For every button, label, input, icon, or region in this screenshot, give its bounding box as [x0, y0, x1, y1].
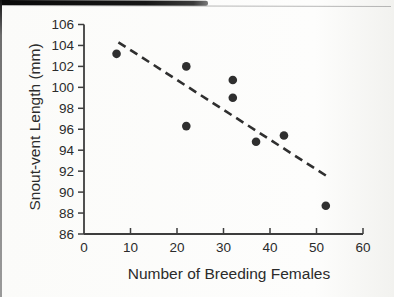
y-tick-label: 96: [59, 122, 74, 137]
y-tick-label: 104: [51, 38, 74, 53]
x-tick-label: 50: [309, 240, 324, 255]
x-tick-label: 0: [80, 240, 88, 255]
data-point: [229, 94, 238, 103]
y-tick-label: 90: [59, 185, 74, 200]
y-tick-label: 92: [59, 164, 74, 179]
x-tick-label: 10: [123, 240, 138, 255]
y-tick-label: 88: [59, 206, 74, 221]
data-point: [229, 76, 238, 85]
y-axis-title: Snout-vent Length (mm): [26, 43, 44, 210]
x-axis-title: Number of Breeding Females: [128, 265, 330, 283]
data-point: [112, 50, 121, 59]
y-tick-label: 100: [51, 80, 74, 95]
data-point: [280, 131, 289, 140]
x-tick-label: 20: [169, 240, 184, 255]
data-point: [182, 122, 191, 131]
x-tick-label: 30: [216, 240, 231, 255]
y-tick-label: 106: [51, 17, 74, 32]
y-tick-label: 94: [59, 143, 75, 158]
scanned-page: 868890929496981001021041060102030405060 …: [0, 0, 394, 297]
y-tick-label: 102: [51, 59, 74, 74]
x-tick-label: 60: [355, 240, 370, 255]
chart-canvas: 868890929496981001021041060102030405060: [0, 0, 394, 297]
y-tick-label: 98: [59, 101, 74, 116]
data-point: [322, 201, 331, 210]
scatter-chart: 868890929496981001021041060102030405060 …: [0, 0, 394, 297]
trend-line: [118, 42, 327, 176]
data-point: [252, 138, 261, 147]
data-point: [182, 62, 191, 71]
x-tick-label: 40: [262, 240, 277, 255]
y-tick-label: 86: [59, 227, 74, 242]
